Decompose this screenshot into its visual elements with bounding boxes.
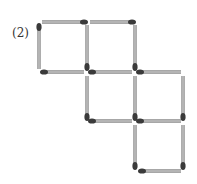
match-head — [128, 19, 136, 24]
matchstick — [180, 125, 185, 170]
matchstick — [132, 25, 137, 71]
match-head — [36, 23, 41, 31]
match-head — [180, 113, 185, 121]
matchstick — [132, 125, 137, 170]
match-head — [132, 162, 137, 170]
match-head — [180, 162, 185, 170]
match-head — [132, 63, 137, 71]
matchstick — [180, 76, 185, 121]
match-head — [84, 63, 89, 71]
matchstick — [136, 69, 181, 74]
match-head — [88, 69, 96, 74]
matchstick — [84, 76, 89, 121]
matchstick-diagram — [0, 0, 197, 184]
matchstick — [136, 118, 181, 123]
match-head — [138, 168, 146, 173]
matchstick — [40, 69, 84, 74]
matchstick — [132, 76, 137, 121]
matchstick — [88, 69, 132, 74]
matchstick — [90, 19, 136, 24]
matchstick — [138, 168, 181, 173]
match-head — [80, 19, 88, 24]
matchstick — [36, 23, 41, 69]
match-head — [136, 69, 144, 74]
match-head — [88, 118, 96, 123]
matchstick — [42, 19, 88, 24]
matchstick — [88, 118, 132, 123]
match-head — [40, 69, 48, 74]
matchstick — [84, 25, 89, 71]
match-head — [136, 118, 144, 123]
